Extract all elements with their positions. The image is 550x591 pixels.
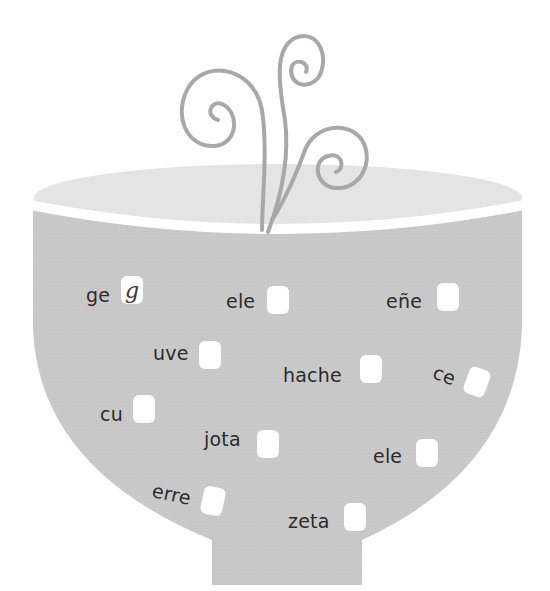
letter-name-label: ele	[226, 292, 255, 311]
answer-box[interactable]	[360, 355, 382, 383]
letter-name-label: ele	[373, 447, 402, 466]
answer-box[interactable]	[267, 286, 289, 314]
answer-box[interactable]	[437, 283, 459, 311]
bowl-body	[33, 205, 522, 585]
answer-box[interactable]	[416, 439, 438, 467]
letter-name-label: jota	[204, 430, 241, 449]
letter-name-label: ge	[86, 286, 110, 305]
handwritten-answer	[437, 283, 459, 311]
answer-box[interactable]	[257, 430, 279, 458]
handwritten-answer	[133, 395, 155, 423]
letter-name-label: cu	[100, 405, 123, 424]
answer-box[interactable]	[133, 395, 155, 423]
handwritten-answer	[257, 430, 279, 458]
letter-name-label: zeta	[288, 512, 330, 531]
handwritten-answer: g	[121, 276, 143, 304]
letter-name-label: eñe	[386, 292, 422, 311]
answer-box[interactable]	[199, 341, 221, 369]
handwritten-answer	[416, 439, 438, 467]
letter-name-label: hache	[283, 366, 342, 385]
handwritten-answer	[360, 355, 382, 383]
answer-box[interactable]	[344, 503, 366, 531]
answer-box[interactable]: g	[121, 276, 143, 304]
handwritten-answer	[344, 503, 366, 531]
letter-name-label: uve	[153, 344, 189, 363]
handwritten-answer	[199, 341, 221, 369]
handwritten-answer	[267, 286, 289, 314]
